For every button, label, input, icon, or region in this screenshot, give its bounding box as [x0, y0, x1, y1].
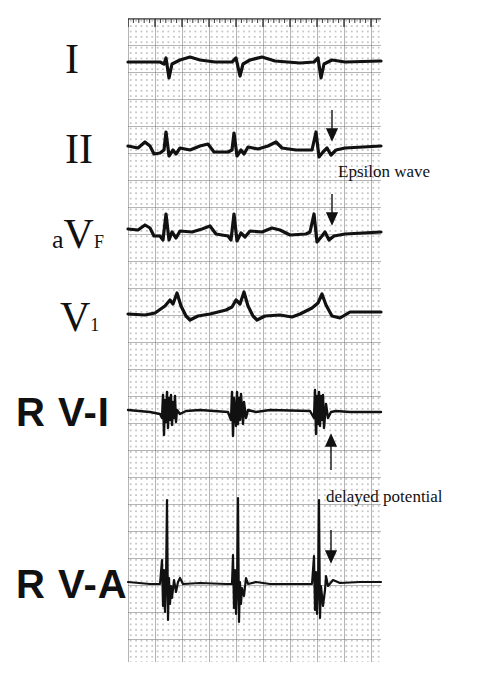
trace-lead-V1: [128, 292, 381, 320]
ecg-traces: [0, 0, 497, 678]
trace-lead-II: [128, 132, 381, 157]
trace-lead-RV-I: [128, 390, 381, 436]
trace-lead-I: [128, 57, 381, 78]
arrow-epsilon-lead-II: [327, 110, 337, 140]
annotation-epsilon-wave: Epsilon wave: [338, 162, 430, 182]
trace-lead-aVF: [128, 214, 381, 242]
annotation-delayed-potential: delayed potential: [326, 487, 443, 507]
trace-lead-RV-A: [128, 498, 381, 622]
arrow-epsilon-lead-aVF: [327, 194, 337, 224]
arrow-delayed-RV-I: [326, 435, 336, 470]
arrow-delayed-RV-A: [326, 530, 336, 562]
